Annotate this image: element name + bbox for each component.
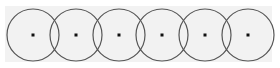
center-dot [75, 34, 78, 37]
center-dot [32, 34, 35, 37]
center-dot [161, 34, 164, 37]
center-dot [118, 34, 121, 37]
center-dot [204, 34, 207, 37]
center-dot [247, 34, 250, 37]
circles-diagram [0, 0, 280, 68]
